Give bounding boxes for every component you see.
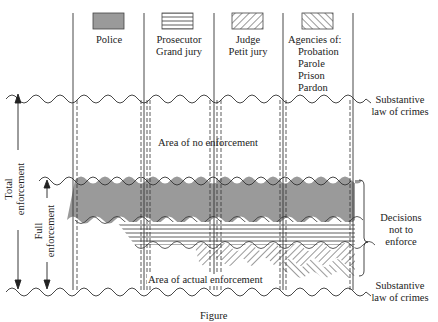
actual-enforcement-label: Area of actual enforcement bbox=[147, 274, 264, 286]
judge-band bbox=[195, 243, 355, 266]
figure-caption: Figure bbox=[200, 310, 227, 322]
label-line: not to bbox=[368, 224, 434, 236]
label-line: Judge bbox=[215, 34, 281, 46]
agencies-swatch bbox=[302, 13, 333, 29]
prosecutor-label: Prosecutor Grand jury bbox=[146, 34, 212, 58]
label-line: enforcement bbox=[15, 154, 27, 224]
label-line: Parole bbox=[288, 58, 341, 70]
top-substantive-law-label: Substantive law of crimes bbox=[364, 94, 436, 118]
label-line: Full bbox=[33, 196, 45, 266]
prosecutor-swatch bbox=[162, 13, 193, 29]
top-law-wave bbox=[6, 95, 371, 103]
label-line: law of crimes bbox=[364, 292, 436, 304]
label-line: Decisions bbox=[368, 212, 434, 224]
judge-swatch bbox=[232, 13, 263, 29]
bottom-substantive-law-label: Substantive law of crimes bbox=[364, 280, 436, 304]
bottom-law-wave bbox=[6, 288, 371, 296]
police-swatch bbox=[93, 13, 124, 29]
no-enforcement-label: Area of no enforcement bbox=[158, 137, 258, 149]
full-enforcement-label: Full enforcement bbox=[33, 196, 59, 266]
label-line: Agencies of: bbox=[288, 34, 341, 46]
label-line: Total bbox=[3, 154, 15, 224]
police-band bbox=[67, 177, 363, 224]
label-line: Probation bbox=[288, 46, 341, 58]
decisions-bracket bbox=[359, 180, 368, 276]
label-line: enforcement bbox=[45, 196, 57, 266]
label-line: Police bbox=[78, 34, 140, 46]
decisions-not-to-enforce-label: Decisions not to enforce bbox=[368, 212, 434, 248]
label-line: Prison bbox=[288, 70, 341, 82]
agencies-label: Agencies of: Probation Parole Prison Par… bbox=[288, 34, 341, 94]
label-line: Petit jury bbox=[215, 46, 281, 58]
judge-label: Judge Petit jury bbox=[215, 34, 281, 58]
label-line: Grand jury bbox=[146, 46, 212, 58]
label-line: Prosecutor bbox=[146, 34, 212, 46]
police-label: Police bbox=[78, 34, 140, 46]
label-line: Substantive bbox=[364, 280, 436, 292]
label-line: law of crimes bbox=[364, 106, 436, 118]
label-line: Pardon bbox=[288, 82, 341, 94]
total-enforcement-label: Total enforcement bbox=[3, 154, 29, 224]
label-line: Substantive bbox=[364, 94, 436, 106]
label-line: enforce bbox=[368, 236, 434, 248]
